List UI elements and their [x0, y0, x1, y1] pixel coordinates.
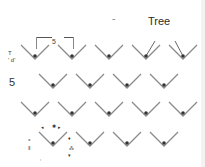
scatter-mark: ‚ — [40, 155, 41, 161]
tree-glyph-icon — [18, 98, 52, 122]
row-label: 5 — [9, 76, 15, 88]
tree-glyph-icon — [36, 70, 70, 94]
scatter-mark: ◂ — [41, 124, 44, 130]
tree-glyph-icon — [147, 70, 181, 94]
side-annotation-bottom: ' d' — [8, 57, 15, 64]
tree-glyph-icon — [166, 98, 200, 122]
scatter-mark: ♦ — [68, 135, 71, 141]
figure-title: Tree — [148, 15, 170, 27]
side-annotation: T ' d' — [8, 50, 15, 64]
tree-glyph-icon — [18, 41, 52, 65]
tree-glyph-icon — [92, 41, 126, 65]
tree-glyph-icon — [36, 128, 70, 152]
scatter-mark: ⁂ — [69, 145, 74, 151]
scan-edge — [201, 0, 205, 167]
scatter-mark: ✱ — [52, 123, 56, 129]
tree-glyph-icon — [110, 128, 144, 152]
tree-glyph-icon — [147, 128, 181, 152]
side-annotation-top: T — [8, 50, 15, 57]
tree-glyph-icon — [55, 41, 89, 65]
header-mark: ~ — [112, 16, 116, 22]
dimension-bar-left — [36, 37, 52, 38]
tree-glyph-icon — [166, 41, 200, 65]
tree-glyph-icon — [73, 70, 107, 94]
tree-glyph-icon — [92, 98, 126, 122]
scatter-mark: ⁎ — [28, 136, 31, 142]
tree-glyph-icon — [55, 98, 89, 122]
scatter-mark: ▾ — [68, 152, 71, 158]
tree-glyph-icon — [129, 98, 163, 122]
scatter-mark: ⁑ — [28, 146, 31, 152]
tree-glyph-icon — [73, 128, 107, 152]
tree-glyph-icon — [110, 70, 144, 94]
scatter-mark: ▸ — [58, 124, 61, 130]
tree-glyph-icon — [129, 41, 163, 65]
